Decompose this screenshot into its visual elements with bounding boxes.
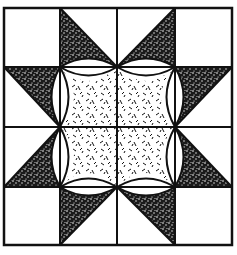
quilt-block-svg bbox=[0, 0, 237, 255]
grid-lines bbox=[4, 8, 232, 245]
quilt-block-figure bbox=[0, 0, 237, 255]
